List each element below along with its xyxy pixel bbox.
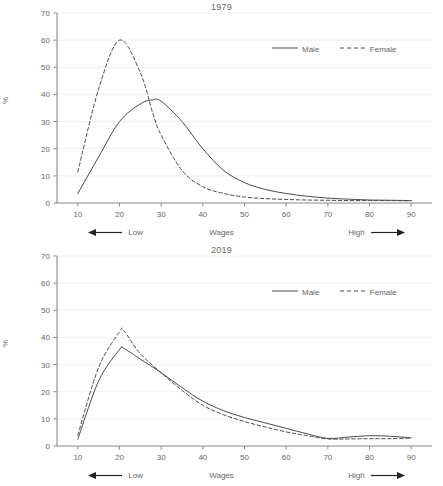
svg-text:60: 60: [282, 453, 291, 462]
annotation-high-label-1979: High: [348, 228, 364, 237]
svg-text:20: 20: [115, 453, 124, 462]
svg-text:40: 40: [41, 90, 50, 99]
legend-swatch-male: [272, 44, 298, 54]
svg-text:40: 40: [41, 333, 50, 342]
svg-text:60: 60: [41, 36, 50, 45]
svg-text:80: 80: [365, 210, 374, 219]
svg-text:50: 50: [41, 306, 50, 315]
annotation-high-label-2019: High: [348, 471, 364, 480]
svg-text:10: 10: [41, 415, 50, 424]
svg-text:70: 70: [323, 210, 332, 219]
svg-text:30: 30: [41, 118, 50, 127]
plot-area-1979: 010203040506070102030405060708090: [0, 0, 443, 243]
legend-swatch-male: [272, 287, 298, 297]
svg-text:40: 40: [198, 453, 207, 462]
svg-text:70: 70: [41, 9, 50, 18]
chart-2019: 2019 % 010203040506070102030405060708090…: [0, 243, 443, 486]
svg-text:10: 10: [41, 172, 50, 181]
svg-text:0: 0: [46, 199, 51, 208]
svg-text:50: 50: [240, 210, 249, 219]
svg-text:80: 80: [365, 453, 374, 462]
svg-text:10: 10: [73, 453, 82, 462]
legend-label-male: Male: [302, 288, 319, 297]
svg-text:30: 30: [157, 453, 166, 462]
annotation-high-1979: High: [348, 228, 405, 237]
svg-text:30: 30: [41, 361, 50, 370]
svg-text:70: 70: [323, 453, 332, 462]
svg-text:90: 90: [407, 453, 416, 462]
svg-text:10: 10: [73, 210, 82, 219]
svg-text:50: 50: [240, 453, 249, 462]
svg-text:30: 30: [157, 210, 166, 219]
legend-swatch-female: [340, 44, 366, 54]
svg-text:50: 50: [41, 63, 50, 72]
annotation-high-2019: High: [348, 471, 405, 480]
svg-text:60: 60: [41, 279, 50, 288]
right-arrow-icon: [371, 471, 405, 480]
svg-text:20: 20: [41, 388, 50, 397]
svg-text:70: 70: [41, 252, 50, 261]
legend-swatch-female: [340, 287, 366, 297]
svg-text:90: 90: [407, 210, 416, 219]
svg-text:60: 60: [282, 210, 291, 219]
legend-2019: Male Female: [272, 287, 397, 297]
legend-label-female: Female: [370, 45, 397, 54]
chart-1979: 1979 % 010203040506070102030405060708090…: [0, 0, 443, 243]
svg-text:20: 20: [41, 145, 50, 154]
legend-label-male: Male: [302, 45, 319, 54]
svg-text:0: 0: [46, 442, 51, 451]
right-arrow-icon: [371, 228, 405, 237]
legend-label-female: Female: [370, 288, 397, 297]
legend-1979: Male Female: [272, 44, 397, 54]
plot-area-2019: 010203040506070102030405060708090: [0, 243, 443, 486]
svg-text:20: 20: [115, 210, 124, 219]
svg-text:40: 40: [198, 210, 207, 219]
